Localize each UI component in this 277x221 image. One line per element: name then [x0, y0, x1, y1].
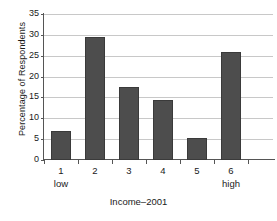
y-axis-tick-mark	[41, 35, 44, 36]
x-axis-tick-label: 6	[214, 165, 248, 176]
y-axis-tick-label: 10	[17, 113, 39, 122]
y-axis-tick-mark	[41, 118, 44, 119]
x-axis-tick-label: 4	[146, 165, 180, 176]
x-axis-tick-sublabel: low	[41, 178, 81, 189]
y-axis-tick-label: 0	[17, 155, 39, 164]
x-axis-tick-mark	[180, 160, 181, 164]
bar	[51, 131, 70, 160]
plot-area	[44, 14, 248, 160]
y-axis-tick-label: 25	[17, 51, 39, 60]
bar	[153, 100, 172, 160]
bar	[119, 87, 138, 160]
x-axis-tick-mark	[146, 160, 147, 164]
bars-group	[44, 14, 248, 160]
y-axis-tick-label: 15	[17, 92, 39, 101]
x-axis-tick-label: 1	[44, 165, 78, 176]
x-axis-tick-label: 3	[112, 165, 146, 176]
x-axis-tick-label: 5	[180, 165, 214, 176]
x-axis-tick-mark	[214, 160, 215, 164]
y-axis-tick-label: 35	[17, 9, 39, 18]
y-axis-tick-mark	[41, 77, 44, 78]
bar	[85, 37, 104, 160]
y-axis-tick-label: 5	[17, 134, 39, 143]
bar	[187, 138, 206, 160]
x-axis-tick-mark	[248, 160, 249, 164]
bar	[221, 52, 240, 160]
y-axis-tick-mark	[41, 14, 44, 15]
x-axis-tick-label: 2	[78, 165, 112, 176]
y-axis-tick-label: 20	[17, 72, 39, 81]
y-axis-tick-mark	[41, 139, 44, 140]
y-axis-tick-label: 30	[17, 30, 39, 39]
x-axis-tick-mark	[78, 160, 79, 164]
bar-chart: Percentage of Respondents 05101520253035…	[0, 0, 277, 221]
x-axis-tick-mark	[44, 160, 45, 164]
x-axis-tick-sublabel: high	[211, 178, 251, 189]
y-axis-tick-mark	[41, 97, 44, 98]
x-axis-title: Income–2001	[0, 196, 277, 207]
y-axis-tick-mark	[41, 56, 44, 57]
x-axis-tick-mark	[112, 160, 113, 164]
